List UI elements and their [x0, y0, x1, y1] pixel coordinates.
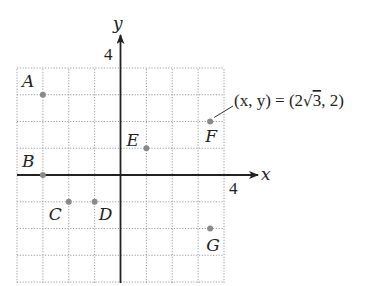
point-marker: [40, 92, 46, 98]
coordinate-plane: x y 4 4 ABCDEFG (x, y) = (2√3, 2): [0, 0, 368, 286]
x-tick-label: 4: [229, 179, 238, 198]
point-label: E: [125, 130, 139, 150]
point-e: E: [125, 130, 149, 151]
point-f: F: [204, 119, 218, 146]
point-label: F: [204, 126, 218, 146]
annotation-text: (x, y) = (2√3, 2): [234, 91, 344, 110]
point-label: A: [20, 71, 34, 91]
y-axis-label: y: [112, 13, 123, 33]
point-label: B: [21, 151, 35, 171]
point-marker: [207, 226, 213, 232]
point-label: D: [98, 204, 113, 224]
point-marker: [40, 172, 46, 178]
point-marker: [66, 199, 72, 205]
point-g: G: [206, 226, 220, 255]
point-label: G: [206, 235, 220, 255]
annotation-leader-line: [214, 106, 233, 118]
point-label: C: [49, 204, 62, 224]
point-b: B: [21, 151, 46, 178]
annotation-prefix: (x, y) = (2: [234, 91, 303, 110]
point-a: A: [20, 71, 46, 98]
point-marker: [92, 199, 98, 205]
point-marker: [207, 119, 213, 125]
point-marker: [143, 145, 149, 151]
radical-sign: √: [303, 92, 313, 110]
point-c: C: [49, 199, 72, 224]
x-axis-label: x: [261, 164, 271, 184]
radicand: 3: [313, 91, 322, 110]
point-d: D: [92, 199, 113, 224]
y-tick-label: 4: [104, 45, 113, 64]
annotation-suffix: , 2): [321, 91, 344, 110]
